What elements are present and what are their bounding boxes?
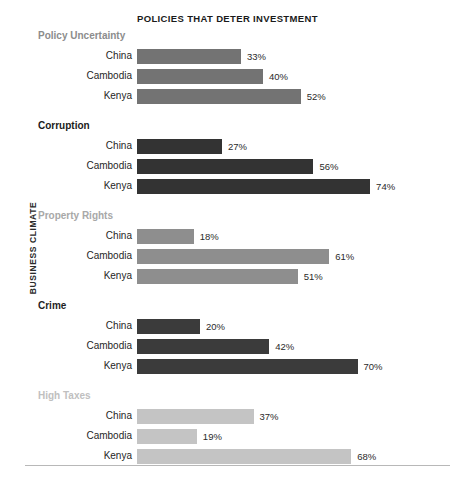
bar-track: 40% [137,69,450,84]
bar-value-label: 33% [241,49,266,64]
bar-row: China18% [0,226,450,246]
bar-value-label: 42% [269,339,294,354]
bar [137,179,370,194]
group-spacer [0,106,450,116]
bar-row-label: China [106,316,132,336]
bar [137,229,194,244]
bar-value-label: 27% [222,139,247,154]
bar-value-label: 74% [370,179,395,194]
bar-row-label: Cambodia [86,246,132,266]
bar-group-label: Crime [0,296,450,316]
bar [137,429,197,444]
bar-value-label: 20% [200,319,225,334]
bar [137,249,329,264]
bar-row-label: Kenya [104,86,132,106]
bar-row-label: China [106,406,132,426]
bar-row-label: China [106,46,132,66]
bar-track: 42% [137,339,450,354]
bar-group: CrimeChina20%Cambodia42%Kenya70% [0,296,450,376]
bar-value-label: 56% [313,159,338,174]
bar-group-label: Policy Uncertainty [0,26,450,46]
bar-group: High TaxesChina37%Cambodia19%Kenya68% [0,386,450,466]
bar [137,319,200,334]
bar-row: Kenya70% [0,356,450,376]
bar [137,69,263,84]
bar-track: 70% [137,359,450,374]
bar-row-label: Kenya [104,356,132,376]
bar-value-label: 52% [301,89,326,104]
bar-value-label: 68% [351,449,376,464]
bar-row: Cambodia19% [0,426,450,446]
group-spacer [0,286,450,296]
bar [137,89,301,104]
bar [137,359,358,374]
bar-track: 61% [137,249,450,264]
bar-track: 37% [137,409,450,424]
bar-row-label: Cambodia [86,426,132,446]
bar-group-rows: China37%Cambodia19%Kenya68% [0,406,450,466]
bar-track: 19% [137,429,450,444]
bar-row: Cambodia61% [0,246,450,266]
bar-row: China33% [0,46,450,66]
bar-value-label: 70% [358,359,383,374]
bar-group: CorruptionChina27%Cambodia56%Kenya74% [0,116,450,196]
group-spacer [0,376,450,386]
bar-group-label: High Taxes [0,386,450,406]
bar [137,449,351,464]
bar [137,269,298,284]
bar-row: Cambodia40% [0,66,450,86]
bar-row-label: Cambodia [86,66,132,86]
bar-group: Policy UncertaintyChina33%Cambodia40%Ken… [0,26,450,106]
group-spacer [0,196,450,206]
bar-row-label: Cambodia [86,336,132,356]
bar-group-rows: China27%Cambodia56%Kenya74% [0,136,450,196]
bar-row-label: China [106,226,132,246]
bar-track: 20% [137,319,450,334]
bar-value-label: 61% [329,249,354,264]
bar-row-label: Kenya [104,446,132,466]
bar-row: China37% [0,406,450,426]
bar-row: Kenya74% [0,176,450,196]
bar-track: 68% [137,449,450,464]
bar-value-label: 40% [263,69,288,84]
bar [137,49,241,64]
bar-group: Property RightsChina18%Cambodia61%Kenya5… [0,206,450,286]
bar-group-label: Corruption [0,116,450,136]
bar-group-label: Property Rights [0,206,450,226]
bar-track: 51% [137,269,450,284]
bar-group-rows: China33%Cambodia40%Kenya52% [0,46,450,106]
bar [137,339,269,354]
bar-track: 74% [137,179,450,194]
bar-row: Kenya51% [0,266,450,286]
plot-area: Policy UncertaintyChina33%Cambodia40%Ken… [0,26,450,466]
bar-row: China20% [0,316,450,336]
bar-row: China27% [0,136,450,156]
bar [137,409,254,424]
bar-group-rows: China20%Cambodia42%Kenya70% [0,316,450,376]
bar-row-label: Cambodia [86,156,132,176]
bar-track: 52% [137,89,450,104]
bar-row-label: Kenya [104,176,132,196]
bar-track: 33% [137,49,450,64]
chart-title: POLICIES THAT DETER INVESTMENT [137,13,318,24]
bar-track: 27% [137,139,450,154]
bar-track: 18% [137,229,450,244]
bottom-divider [25,465,450,466]
bar-row-label: China [106,136,132,156]
bar-value-label: 51% [298,269,323,284]
bar [137,139,222,154]
bar-group-rows: China18%Cambodia61%Kenya51% [0,226,450,286]
bar-value-label: 18% [194,229,219,244]
bar-row: Cambodia42% [0,336,450,356]
bar-row-label: Kenya [104,266,132,286]
bar-row: Kenya68% [0,446,450,466]
bar [137,159,313,174]
bar-value-label: 19% [197,429,222,444]
bar-row: Cambodia56% [0,156,450,176]
bar-track: 56% [137,159,450,174]
bar-row: Kenya52% [0,86,450,106]
bar-value-label: 37% [254,409,279,424]
chart-figure: POLICIES THAT DETER INVESTMENT BUSINESS … [0,0,450,483]
